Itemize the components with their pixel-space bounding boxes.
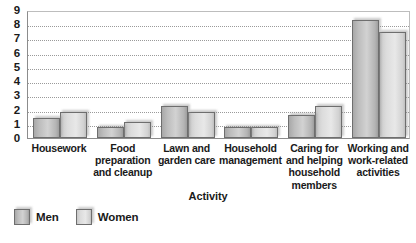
legend-item-women: Women <box>76 209 139 225</box>
bar-women <box>124 122 151 138</box>
x-axis-label-line: Lawn and <box>155 142 219 154</box>
x-axis-label-line: preparation <box>91 154 155 166</box>
bar-men <box>288 115 315 138</box>
y-axis-tick-label: 2 <box>14 105 20 117</box>
x-axis-label-line: Food <box>91 142 155 154</box>
y-axis-tick-label: 1 <box>14 119 20 131</box>
legend-swatch-men <box>14 209 30 225</box>
legend-label: Women <box>98 211 139 223</box>
x-axis-label-line: Household <box>219 142 283 154</box>
bar-men <box>161 106 188 138</box>
x-axis-label-line: household <box>282 166 346 178</box>
chart-legend: MenWomen <box>14 209 149 225</box>
x-axis-label: Working andwork-relatedactivities <box>346 142 410 179</box>
legend-item-men: Men <box>14 209 59 225</box>
x-axis-label-line: members <box>282 179 346 191</box>
y-axis-tick-label: 0 <box>14 133 20 145</box>
y-axis-tick-label: 5 <box>14 62 20 74</box>
x-axis-label: Housework <box>27 142 91 154</box>
x-axis-title: Activity <box>0 190 416 202</box>
x-axis-label-line: garden care <box>155 154 219 166</box>
bar-men <box>224 127 251 138</box>
x-axis-label: Householdmanagement <box>219 142 283 166</box>
bar-women <box>379 32 406 138</box>
plot-area <box>27 11 410 139</box>
bar-women <box>315 106 342 138</box>
bar-group <box>97 12 151 138</box>
y-axis-tick-label: 9 <box>14 5 20 17</box>
y-axis-tick-label: 8 <box>14 19 20 31</box>
x-axis-label-line: work-related <box>346 154 410 166</box>
x-axis-label-line: management <box>219 154 283 166</box>
bar-group <box>352 12 406 138</box>
bar-women <box>188 112 215 138</box>
x-axis-label: Caring forand helpinghouseholdmembers <box>282 142 346 191</box>
x-axis-label-line: and helping <box>282 154 346 166</box>
bar-group <box>288 12 342 138</box>
x-axis-label-line: Working and <box>346 142 410 154</box>
bar-chart: 9876543210 HouseworkFoodpreparationand c… <box>0 0 416 243</box>
bars-layer <box>28 12 409 138</box>
y-axis-tick-label: 3 <box>14 91 20 103</box>
bar-men <box>97 127 124 138</box>
x-axis-category-labels: HouseworkFoodpreparationand cleanupLawn … <box>27 142 410 188</box>
bar-group <box>161 12 215 138</box>
x-axis-label: Foodpreparationand cleanup <box>91 142 155 179</box>
legend-label: Men <box>36 211 59 223</box>
bar-women <box>251 127 278 138</box>
bar-women <box>60 112 87 138</box>
x-axis-label-line: activities <box>346 166 410 178</box>
y-axis-tick-label: 4 <box>14 76 20 88</box>
y-axis-tick-label: 7 <box>14 34 20 46</box>
legend-swatch-women <box>76 209 92 225</box>
bar-group <box>33 12 87 138</box>
x-axis-label-line: Caring for <box>282 142 346 154</box>
bar-men <box>33 118 60 138</box>
bar-men <box>352 20 379 138</box>
bar-group <box>224 12 278 138</box>
x-axis-label-line: Housework <box>27 142 91 154</box>
x-axis-label-line: and cleanup <box>91 166 155 178</box>
y-axis: 9876543210 <box>0 11 24 139</box>
x-axis-label: Lawn andgarden care <box>155 142 219 166</box>
y-axis-tick-label: 6 <box>14 48 20 60</box>
